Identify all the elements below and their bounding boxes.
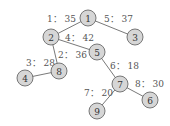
node-label: 2 <box>48 33 54 43</box>
node-6: 6 <box>142 92 158 108</box>
node-label: 9 <box>94 107 100 117</box>
tree-diagram: 1： 355： 374： 422： 363： 286： 188： 307： 20… <box>0 0 170 126</box>
edge-label: 3： 28 <box>26 58 55 68</box>
node-label: 3 <box>132 33 138 43</box>
node-label: 1 <box>85 14 91 24</box>
edge-label: 1： 35 <box>47 14 76 24</box>
node-9: 9 <box>89 103 105 119</box>
edge-label: 6： 18 <box>110 61 139 71</box>
node-label: 8 <box>56 67 62 77</box>
edge-label: 8： 30 <box>135 79 164 89</box>
node-label: 5 <box>94 48 100 58</box>
node-label: 7 <box>117 80 123 90</box>
node-2: 2 <box>43 29 59 45</box>
edge-label: 2： 36 <box>58 50 87 60</box>
node-3: 3 <box>127 29 143 45</box>
node-label: 6 <box>147 96 153 106</box>
node-label: 4 <box>22 74 28 84</box>
node-7: 7 <box>112 76 128 92</box>
node-1: 1 <box>80 10 96 26</box>
edge-label: 7： 20 <box>84 88 113 98</box>
edge-label: 4： 42 <box>65 33 94 43</box>
node-8: 8 <box>51 63 67 79</box>
edge-label: 5： 37 <box>104 14 133 24</box>
node-5: 5 <box>89 44 105 60</box>
node-4: 4 <box>17 70 33 86</box>
